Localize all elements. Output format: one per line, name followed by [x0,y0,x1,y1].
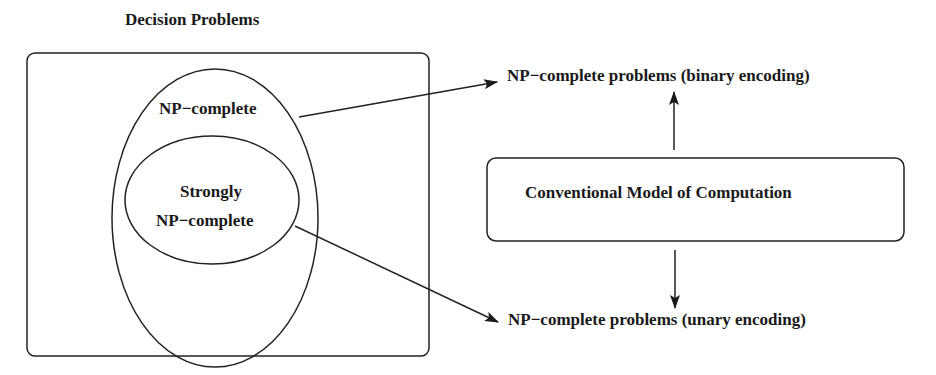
arrow-to-binary [299,82,497,117]
strongly-label: Strongly [180,182,242,202]
binary-target-label: NP−complete problems (binary encoding) [507,66,810,86]
model-label: Conventional Model of Computation [525,183,792,203]
arrow-to-unary [295,226,498,322]
np-complete-label: NP−complete [159,99,256,119]
diagram-title: Decision Problems [125,10,259,30]
unary-target-label: NP−complete problems (unary encoding) [508,310,806,330]
strongly-np-complete-label: NP−complete [156,211,253,231]
